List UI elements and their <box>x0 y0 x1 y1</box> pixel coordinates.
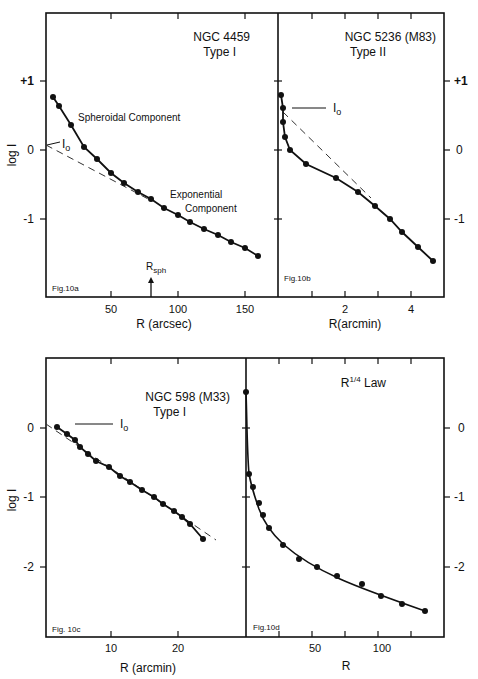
fig10d-ytick-minus1: -1 <box>454 490 465 504</box>
fig10c-title: NGC 598 (M33) <box>145 390 230 404</box>
fig10d-xtick-50: 50 <box>309 642 321 654</box>
fig10a-exponential-label: Exponential <box>170 189 222 200</box>
fig10a-xtick-100: 100 <box>169 303 187 315</box>
fig10a-io-label: Io <box>62 137 70 153</box>
fig10a-xlabel: R (arcsec) <box>136 317 191 331</box>
fig10b-xlabel: R(arcmin) <box>329 317 382 331</box>
fig10d-ytick-0: 0 <box>458 421 465 435</box>
fig10a-ylabel: log I <box>5 144 19 167</box>
fig10b-figure-label: Fig.10b <box>284 274 311 283</box>
fig10a-dashed-fit <box>46 145 150 200</box>
fig10c-ytick-minus1: -1 <box>23 490 34 504</box>
fig10a-component-label: Component <box>185 203 237 214</box>
figure-10-chart: NGC 4459 Type I Spheroidal Component Exp… <box>0 0 478 679</box>
fig10d-xlabel: R <box>342 659 351 673</box>
fig10a-title: NGC 4459 <box>193 30 250 44</box>
fig10b-ytick-0: 0 <box>456 143 463 157</box>
fig10a-ytick-plus1: +1 <box>20 74 34 88</box>
rsph-arrow-icon <box>148 277 154 297</box>
fig10a-rsph-label: Rsph <box>146 261 166 275</box>
fig10b-points <box>278 92 436 264</box>
fig10a-figure-label: Fig.10a <box>52 284 79 293</box>
fig10a-xtick-50: 50 <box>105 303 117 315</box>
fig10d-figure-label: Fig.10d <box>253 623 280 632</box>
fig10b-xtick-2: 2 <box>342 303 348 315</box>
fig10a-ytick-0: 0 <box>27 143 34 157</box>
fig10c-ytick-0: 0 <box>27 421 34 435</box>
fig10d-plot <box>243 389 428 614</box>
fig10b-plot <box>278 92 436 264</box>
fig10c-plot <box>46 424 216 542</box>
fig10d-xtick-100: 100 <box>373 642 391 654</box>
fig10c-xtick-10: 10 <box>105 642 117 654</box>
fig10d-title: R1/4 Law <box>341 375 386 390</box>
fig10b-io-label: Io <box>333 101 341 117</box>
fig10a-spheroidal-label: Spheroidal Component <box>78 112 181 123</box>
fig10b-ytick-minus1: -1 <box>454 212 465 226</box>
fig10b-type: Type II <box>350 45 386 59</box>
fig10a-type: Type I <box>203 45 236 59</box>
fig10d-ticks <box>242 358 450 637</box>
fig10d-points <box>243 389 428 614</box>
fig10c-xlabel: R (arcmin) <box>120 661 176 675</box>
fig10b-title: NGC 5236 (M83) <box>345 30 436 44</box>
fig10a-ytick-minus1: -1 <box>23 212 34 226</box>
fig10c-points <box>54 424 206 542</box>
fig10c-io-label: Io <box>120 417 128 433</box>
fig10b-xtick-4: 4 <box>408 303 414 315</box>
fig10c-ylabel: log I <box>5 489 19 512</box>
fig10b-ytick-plus1: +1 <box>454 74 468 88</box>
fig10a-io-marker <box>47 142 60 145</box>
fig10c-figure-label: Fig. 10c <box>52 625 80 634</box>
fig10a-xtick-150: 150 <box>236 303 254 315</box>
fig10b-curve <box>281 95 433 261</box>
fig10d-ytick-minus2: -2 <box>454 560 465 574</box>
fig10c-type: Type I <box>153 405 186 419</box>
fig10c-xtick-20: 20 <box>172 642 184 654</box>
fig10c-ytick-minus2: -2 <box>23 560 34 574</box>
